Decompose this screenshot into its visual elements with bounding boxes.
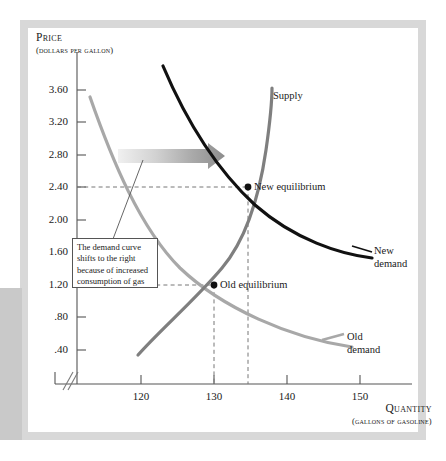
y-tick-label-3-60: 3.60: [32, 83, 68, 95]
old-equilibrium-point: [211, 282, 218, 289]
x-axis-title-main: Quantity: [352, 402, 432, 415]
callout-text: The demand curve shifts to the right bec…: [77, 242, 148, 286]
y-tick-label-2-40: 2.40: [32, 180, 68, 192]
new-equilibrium-point: [245, 184, 252, 191]
y-axis-title: Price (dollars per gallon): [36, 31, 113, 56]
new-demand-leader-line: [352, 246, 372, 252]
new-equilibrium-label: New equilibrium: [254, 181, 325, 192]
y-axis-ticks: [77, 90, 86, 350]
old-demand-curve-label: Old demand: [347, 330, 380, 356]
y-tick-label-1-20: 1.20: [32, 278, 68, 290]
old-demand-leader-line: [322, 334, 344, 340]
x-axis-ticks: [141, 375, 360, 384]
shift-arrow-icon: [118, 143, 225, 169]
y-tick-label-2-80: 2.80: [32, 148, 68, 160]
y-tick-label-0-80: .80: [32, 310, 68, 322]
y-tick-label-3-20: 3.20: [32, 115, 68, 127]
old-demand-curve: [90, 97, 352, 347]
y-axis-title-sub: (dollars per gallon): [36, 46, 113, 56]
x-tick-label-150: 150: [340, 390, 380, 402]
x-axis-title-sub: (gallons of gasoline): [352, 417, 432, 427]
axis-break-mark-1: [63, 372, 73, 390]
x-axis-title: Quantity (gallons of gasoline): [352, 402, 432, 427]
old-equilibrium-label: Old equilibrium: [220, 279, 287, 290]
new-demand-curve-label: New demand: [374, 244, 407, 270]
y-axis-title-main: Price: [36, 31, 113, 44]
x-tick-label-130: 130: [194, 390, 234, 402]
x-tick-label-140: 140: [267, 390, 307, 402]
y-tick-label-1-60: 1.60: [32, 245, 68, 257]
y-tick-label-2-00: 2.00: [32, 213, 68, 225]
x-tick-label-120: 120: [121, 390, 161, 402]
y-tick-label-0-40: .40: [32, 343, 68, 355]
callout-box: The demand curve shifts to the right bec…: [72, 238, 158, 288]
supply-curve-label: Supply: [273, 89, 303, 102]
figure-container: Price (dollars per gallon) Quantity (gal…: [0, 0, 446, 461]
